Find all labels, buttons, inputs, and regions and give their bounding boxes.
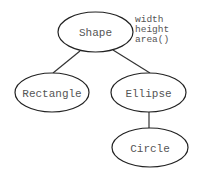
class-hierarchy-diagram: Shape width height area() Rectangle Elli… — [0, 0, 202, 176]
node-ellipse-label: Ellipse — [125, 88, 171, 100]
node-circle[interactable]: Circle — [112, 128, 188, 167]
node-shape-label: Shape — [79, 27, 112, 39]
edge-shape-ellipse — [113, 50, 150, 73]
node-circle-label: Circle — [130, 143, 170, 155]
edge-shape-rectangle — [53, 51, 80, 73]
node-shape[interactable]: Shape — [58, 12, 133, 52]
node-rectangle-label: Rectangle — [22, 88, 81, 100]
shape-attributes: width height area() — [135, 14, 169, 45]
attribute-area: area() — [135, 34, 169, 45]
node-ellipse[interactable]: Ellipse — [111, 73, 186, 112]
node-rectangle[interactable]: Rectangle — [15, 73, 89, 112]
